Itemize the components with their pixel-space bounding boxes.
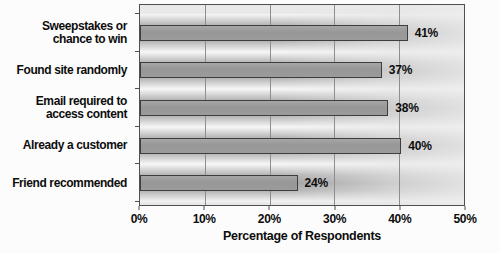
bar-friend-recommended [140,175,298,191]
bar-sweepstakes [140,25,408,41]
bar-row: 40% [140,127,464,165]
bar-already-a-customer [140,138,401,154]
x-axis-ticks [139,206,465,210]
x-tick-label: 50% [453,212,476,226]
y-axis-category-labels: Sweepstakes or chance to win Found site … [0,14,127,202]
bar-row: 41% [140,14,464,52]
bar-value-label: 37% [389,63,412,77]
x-axis-tick [204,206,205,210]
x-axis-tick [334,206,335,210]
x-axis-tick-labels: 0% 10% 20% 30% 40% 50% [139,212,465,226]
x-axis-tick [269,206,270,210]
bar-value-label: 24% [305,176,328,190]
x-axis-tick [139,206,140,210]
category-label: Friend recommended [0,164,127,202]
x-tick-label: 30% [323,212,346,226]
bar-chart-figure: Sweepstakes or chance to win Found site … [0,0,500,253]
bar-row: 37% [140,52,464,90]
category-label: Email required to access content [0,89,127,127]
bar-row: 38% [140,89,464,127]
x-axis-title: Percentage of Respondents [139,229,465,243]
bar-value-label: 40% [408,139,431,153]
category-label: Sweepstakes or chance to win [0,14,127,52]
bar-value-label: 38% [395,101,418,115]
bar-rows: 41% 37% 38% 40% 24% [140,14,464,202]
bar-value-label: 41% [415,26,438,40]
bar-email-required [140,100,388,116]
x-tick-label: 0% [131,212,148,226]
plot-area: 41% 37% 38% 40% 24% [139,4,465,206]
bar-found-site-randomly [140,62,382,78]
x-tick-label: 10% [193,212,216,226]
x-axis-tick [399,206,400,210]
bar-row: 24% [140,164,464,202]
category-label: Found site randomly [0,52,127,90]
x-tick-label: 20% [258,212,281,226]
x-axis-tick [465,206,466,210]
x-tick-label: 40% [388,212,411,226]
category-label: Already a customer [0,127,127,165]
